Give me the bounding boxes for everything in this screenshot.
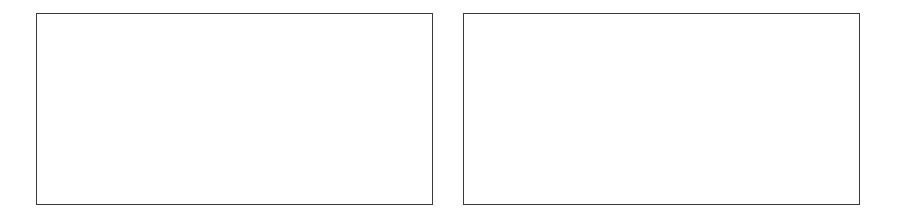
right-empty-panel: [463, 13, 860, 205]
left-empty-panel: [36, 13, 433, 205]
